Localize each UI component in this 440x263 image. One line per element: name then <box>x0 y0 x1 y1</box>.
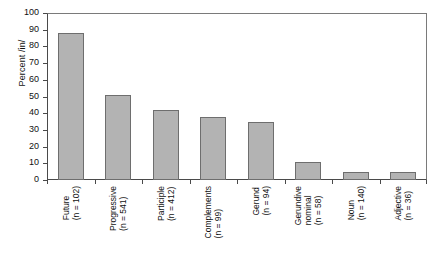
x-axis-tick-mark <box>426 180 427 184</box>
bar <box>248 122 274 180</box>
x-axis-label-slot: Complements(n = 99) <box>190 186 238 263</box>
y-axis-ticks: 0102030405060708090100 <box>0 0 47 263</box>
x-axis-label-line: Noun <box>346 186 356 220</box>
bar <box>153 110 179 180</box>
x-axis-label-line: Gerundive <box>293 186 303 225</box>
y-axis-tick-label: 30 <box>29 124 39 134</box>
x-axis-label-line: Participle <box>156 186 166 221</box>
x-axis-label-slot: Future(n = 102) <box>47 186 95 263</box>
x-axis-label: Future(n = 102) <box>61 186 81 220</box>
bar-chart-figure: Percent /in/ 0102030405060708090100 Futu… <box>0 0 440 263</box>
x-axis-label-line: Complements <box>203 186 213 238</box>
bar-slot <box>332 13 380 180</box>
x-axis-label-line: (n = 412) <box>166 186 176 221</box>
bar-slot <box>380 13 428 180</box>
x-axis-ticks <box>47 180 427 185</box>
x-axis-label: Gerund(n = 94) <box>251 186 271 216</box>
y-axis-tick-label: 20 <box>29 141 39 151</box>
bar-slot <box>142 13 190 180</box>
bar <box>343 172 369 180</box>
x-axis-label: Progressive(n = 541) <box>108 186 128 231</box>
y-axis-tick-label: 60 <box>29 74 39 84</box>
bar-slot <box>237 13 285 180</box>
y-axis-tick-label: 50 <box>29 91 39 101</box>
x-axis-label-line: (n = 58) <box>313 186 323 225</box>
bar <box>58 33 84 180</box>
x-axis-label-slot: Noun(n = 140) <box>332 186 380 263</box>
x-axis-label-slot: Participle(n = 412) <box>142 186 190 263</box>
x-axis-label-line: nominal <box>303 186 313 225</box>
x-axis-tick-mark <box>285 180 286 184</box>
bar-slot <box>190 13 238 180</box>
y-axis-tick-label: 10 <box>29 157 39 167</box>
x-axis-label-line: Progressive <box>108 186 118 231</box>
y-axis-tick-label: 80 <box>29 40 39 50</box>
x-axis-label-slot: Gerund(n = 94) <box>237 186 285 263</box>
bar <box>200 117 226 180</box>
bar <box>105 95 131 180</box>
x-axis-label-slot: Gerundivenominal(n = 58) <box>285 186 333 263</box>
bar <box>390 172 416 180</box>
x-axis-label: Noun(n = 140) <box>346 186 366 220</box>
x-axis-label-line: (n = 99) <box>213 186 223 238</box>
bar-slot <box>47 13 95 180</box>
x-axis-tick-mark <box>47 180 48 184</box>
y-axis-tick-label: 70 <box>29 57 39 67</box>
bar <box>295 162 321 180</box>
y-axis-tick-label: 40 <box>29 107 39 117</box>
y-axis-tick-label: 100 <box>24 7 39 17</box>
x-axis-label-slot: Progressive(n = 541) <box>95 186 143 263</box>
x-axis-labels: Future(n = 102)Progressive(n = 541)Parti… <box>47 186 427 263</box>
x-axis-label: Complements(n = 99) <box>203 186 223 238</box>
x-axis-label-line: (n = 94) <box>261 186 271 216</box>
y-axis-tick-label: 90 <box>29 24 39 34</box>
x-axis-label: Participle(n = 412) <box>156 186 176 221</box>
x-axis-tick-mark <box>380 180 381 184</box>
y-axis-tick-label: 0 <box>34 174 39 184</box>
x-axis-label-line: (n = 36) <box>403 186 413 221</box>
x-axis-tick-mark <box>142 180 143 184</box>
x-axis-label-line: Gerund <box>251 186 261 216</box>
x-axis-label-line: (n = 541) <box>118 186 128 231</box>
x-axis-tick-mark <box>190 180 191 184</box>
x-axis-label-line: (n = 102) <box>71 186 81 220</box>
x-axis-tick-mark <box>237 180 238 184</box>
bar-slot <box>285 13 333 180</box>
x-axis-label: Gerundivenominal(n = 58) <box>293 186 323 225</box>
x-axis-label-line: Adjective <box>393 186 403 221</box>
x-axis-label-slot: Adjective(n = 36) <box>380 186 428 263</box>
x-axis-tick-mark <box>332 180 333 184</box>
x-axis-tick-mark <box>95 180 96 184</box>
x-axis-label-line: Future <box>61 186 71 220</box>
x-axis-label: Adjective(n = 36) <box>393 186 413 221</box>
bars-layer <box>47 13 427 180</box>
bar-slot <box>95 13 143 180</box>
x-axis-label-line: (n = 140) <box>356 186 366 220</box>
